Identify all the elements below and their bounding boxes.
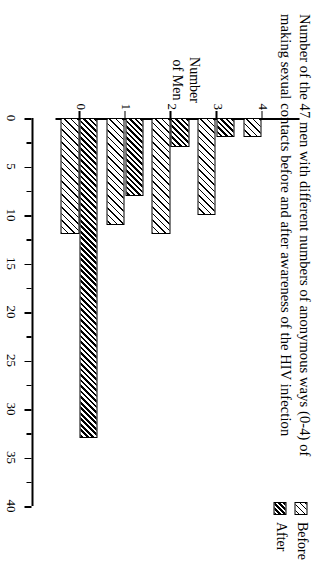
value-tick-label-40: 40 — [2, 500, 18, 513]
value-tick-20 — [24, 312, 31, 314]
category-tick-label-2: 2 — [163, 88, 179, 110]
category-tick-label-1: 1 — [117, 88, 133, 110]
value-tick-35 — [24, 458, 31, 460]
value-tick-minor — [26, 336, 31, 338]
value-tick-0 — [24, 118, 31, 120]
bar-before-cat-3 — [197, 118, 215, 215]
value-tick-minor — [26, 288, 31, 290]
value-tick-minor — [26, 142, 31, 144]
value-tick-label-5: 5 — [2, 163, 18, 170]
legend-item-after[interactable]: After — [272, 502, 288, 560]
bar-after-cat-3 — [216, 118, 234, 137]
value-axis-title-line1: Number — [184, 44, 201, 116]
value-tick-label-10: 10 — [2, 209, 18, 222]
bar-before-cat-4 — [243, 118, 261, 137]
value-tick-40 — [24, 506, 31, 508]
category-tick-label-4: 4 — [254, 88, 270, 110]
value-tick-minor — [26, 239, 31, 241]
value-tick-5 — [24, 167, 31, 169]
value-tick-15 — [24, 264, 31, 266]
bar-after-cat-0 — [79, 118, 97, 438]
category-tick — [261, 111, 263, 118]
light-hatch-swatch-icon — [295, 502, 308, 515]
category-tick — [124, 111, 126, 118]
legend-item-before[interactable]: Before — [293, 502, 309, 560]
legend-label-before: Before — [293, 522, 309, 560]
value-tick-minor — [26, 385, 31, 387]
bar-after-cat-1 — [125, 118, 143, 196]
bar-after-cat-2 — [170, 118, 188, 147]
bar-before-cat-0 — [60, 118, 78, 234]
value-tick-minor — [26, 482, 31, 484]
plot-area: 012340510152025303540 — [57, 118, 285, 506]
category-tick-label-0: 0 — [72, 88, 88, 110]
value-tick-10 — [24, 215, 31, 217]
category-tick — [78, 111, 80, 118]
rotated-figure-wrapper: Number of the 47 men with different numb… — [0, 0, 319, 574]
value-tick-minor — [26, 433, 31, 435]
value-tick-label-0: 0 — [2, 115, 18, 122]
value-tick-label-25: 25 — [2, 354, 18, 367]
category-tick — [215, 111, 217, 118]
value-tick-label-35: 35 — [2, 451, 18, 464]
legend-label-after: After — [272, 522, 288, 552]
value-tick-label-20: 20 — [2, 306, 18, 319]
category-tick-label-3: 3 — [209, 88, 225, 110]
value-tick-25 — [24, 361, 31, 363]
value-tick-30 — [24, 409, 31, 411]
value-tick-label-15: 15 — [2, 257, 18, 270]
value-tick-label-30: 30 — [2, 403, 18, 416]
bar-before-cat-1 — [106, 118, 124, 225]
chart-legend: Before After — [272, 502, 309, 560]
value-tick-minor — [26, 191, 31, 193]
category-tick — [169, 111, 171, 118]
chart-figure: Number of the 47 men with different numb… — [0, 0, 319, 574]
bar-before-cat-2 — [152, 118, 170, 234]
